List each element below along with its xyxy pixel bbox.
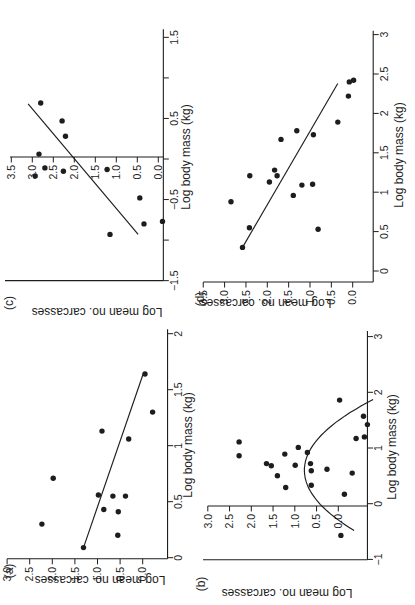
x-tick-label: 1.5 bbox=[168, 30, 180, 45]
data-point bbox=[264, 461, 269, 466]
data-point bbox=[267, 179, 272, 184]
data-point bbox=[81, 545, 86, 550]
data-point bbox=[228, 199, 233, 204]
data-point bbox=[110, 493, 115, 498]
data-point bbox=[315, 227, 320, 232]
data-point bbox=[142, 371, 147, 376]
data-point bbox=[236, 453, 241, 458]
y-tick-label: 2.0 bbox=[245, 514, 257, 529]
data-point bbox=[274, 173, 279, 178]
data-point bbox=[42, 165, 47, 170]
x-tick-label: 2 bbox=[172, 331, 184, 337]
y-axis-title: Log mean no. carcasses bbox=[201, 296, 332, 310]
data-point bbox=[324, 467, 329, 472]
data-point bbox=[101, 507, 106, 512]
subplot-d: 00.511.522.530.00.51.01.52.02.53.03.5(d)… bbox=[193, 31, 406, 310]
x-tick-label: 2.5 bbox=[378, 67, 390, 82]
data-point bbox=[38, 100, 43, 105]
y-tick-label: 0.5 bbox=[310, 514, 322, 529]
data-point bbox=[309, 468, 314, 473]
data-point bbox=[278, 137, 283, 142]
x-axis-title: Log body mass (kg) bbox=[179, 104, 193, 209]
data-point bbox=[362, 434, 367, 439]
y-tick-label: 2.0 bbox=[68, 165, 80, 180]
data-point bbox=[36, 151, 41, 156]
data-point bbox=[59, 118, 64, 123]
data-point bbox=[350, 470, 355, 475]
data-point bbox=[342, 492, 347, 497]
data-point bbox=[338, 533, 343, 538]
x-axis-title: Log body mass (kg) bbox=[385, 394, 399, 499]
data-point bbox=[137, 195, 142, 200]
y-tick-label: 3.0 bbox=[202, 514, 214, 529]
y-axis-title: Log mean no. carcasses bbox=[222, 586, 353, 600]
x-tick-label: −1 bbox=[372, 553, 384, 565]
x-tick-label: 0 bbox=[378, 268, 390, 274]
fit-line bbox=[83, 374, 143, 548]
subplot-c: −1.5−0.50.51.50.00.51.01.52.02.53.03.5(c… bbox=[2, 29, 193, 319]
x-tick-label: 2 bbox=[372, 389, 384, 395]
data-point bbox=[150, 409, 155, 414]
y-tick-label: 0.5 bbox=[131, 165, 143, 180]
data-point bbox=[311, 132, 316, 137]
panel-label: (a) bbox=[2, 564, 16, 579]
data-point bbox=[299, 182, 304, 187]
y-tick-label: 1.0 bbox=[110, 165, 122, 180]
data-point bbox=[99, 428, 104, 433]
data-point bbox=[247, 225, 252, 230]
data-point bbox=[308, 461, 313, 466]
y-tick-label: 3.5 bbox=[5, 165, 17, 180]
data-point bbox=[123, 493, 128, 498]
data-point bbox=[61, 169, 66, 174]
data-point bbox=[346, 93, 351, 98]
data-point bbox=[272, 167, 277, 172]
data-point bbox=[282, 451, 287, 456]
y-tick-label: 2.5 bbox=[47, 165, 59, 180]
y-tick-label: 0.0 bbox=[346, 290, 358, 305]
panel-label: (b) bbox=[194, 577, 208, 592]
data-point bbox=[283, 485, 288, 490]
data-point bbox=[309, 483, 314, 488]
data-point bbox=[335, 119, 340, 124]
y-tick-label: 1.0 bbox=[289, 514, 301, 529]
x-tick-label: 1 bbox=[372, 445, 384, 451]
data-point bbox=[293, 463, 298, 468]
data-point bbox=[160, 219, 165, 224]
data-point bbox=[240, 245, 245, 250]
data-point bbox=[115, 533, 120, 538]
y-axis-title: Log mean no. carcasses bbox=[32, 305, 163, 319]
x-tick-label: 3 bbox=[378, 32, 390, 38]
data-point bbox=[275, 473, 280, 478]
data-point bbox=[141, 221, 146, 226]
data-point bbox=[107, 232, 112, 237]
data-point bbox=[126, 436, 131, 441]
x-tick-label: 1 bbox=[378, 189, 390, 195]
data-point bbox=[33, 173, 38, 178]
x-tick-label: 2 bbox=[378, 110, 390, 116]
data-point bbox=[361, 414, 366, 419]
y-tick-label: 2.5 bbox=[23, 567, 35, 582]
data-point bbox=[337, 397, 342, 402]
figure-svg: 00.511.520.00.51.01.52.02.53.0(a)Log bod… bbox=[0, 0, 415, 605]
data-point bbox=[294, 128, 299, 133]
data-point bbox=[269, 463, 274, 468]
y-tick-label: 1.5 bbox=[267, 514, 279, 529]
subplot-b: −101230.00.51.01.52.02.53.0(b)Log body m… bbox=[194, 331, 399, 600]
figure-viewport: 00.511.520.00.51.01.52.02.53.0(a)Log bod… bbox=[0, 0, 415, 605]
y-tick-label: 2.5 bbox=[223, 514, 235, 529]
x-tick-label: 0 bbox=[172, 555, 184, 561]
x-axis-title: Log body mass (kg) bbox=[181, 392, 195, 497]
x-axis-title: Log body mass (kg) bbox=[392, 102, 406, 207]
figure-landscape: 00.511.520.00.51.01.52.02.53.0(a)Log bod… bbox=[0, 0, 415, 605]
data-point bbox=[296, 445, 301, 450]
x-tick-label: 0 bbox=[372, 501, 384, 507]
x-tick-label: −1.5 bbox=[168, 270, 180, 291]
fit-line bbox=[243, 83, 338, 247]
data-point bbox=[96, 492, 101, 497]
data-point bbox=[291, 193, 296, 198]
x-tick-label: 0.5 bbox=[378, 224, 390, 239]
data-point bbox=[365, 422, 370, 427]
x-tick-label: 3 bbox=[372, 334, 384, 340]
data-point bbox=[351, 78, 356, 83]
data-point bbox=[353, 436, 358, 441]
